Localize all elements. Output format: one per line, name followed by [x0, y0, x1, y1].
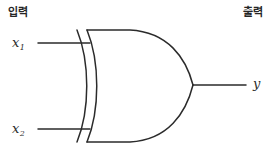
gate-body-top-edge [87, 30, 193, 85]
gate-body-bottom-edge [87, 85, 193, 142]
input-label-x2-base: x [12, 121, 19, 136]
output-label-y: y [253, 77, 260, 90]
input-label-x1-subscript: 1 [20, 43, 25, 52]
input-label-x2: x2 [12, 122, 24, 135]
output-section-label: 출력 [243, 7, 263, 18]
input-label-x2-subscript: 2 [20, 129, 25, 138]
xor-gate-diagram: 입력 출력 x1 x2 y [0, 0, 279, 157]
input-label-x1: x1 [12, 36, 24, 49]
xor-inner-arc [87, 30, 97, 142]
xor-outer-arc [77, 30, 87, 142]
gate-schematic-svg [0, 0, 279, 157]
input-section-label: 입력 [8, 7, 28, 18]
input-label-x1-base: x [12, 35, 19, 50]
